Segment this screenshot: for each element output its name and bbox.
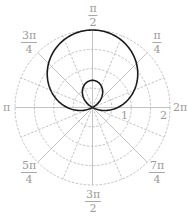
label-5pi-over-4: 5π4 — [21, 160, 37, 185]
radial-label-1: 1 — [121, 110, 128, 121]
label-pi: π — [3, 102, 10, 113]
label-7pi-over-4: 7π4 — [149, 160, 165, 185]
label-2pi: 2π — [173, 102, 187, 113]
label-pi-over-4: π4 — [152, 30, 161, 55]
major-spoke — [38, 108, 93, 163]
minor-spoke — [63, 108, 93, 180]
minor-spoke — [63, 36, 93, 108]
radial-label-2: 2 — [160, 110, 167, 121]
label-3pi-over-4: 3π4 — [21, 30, 37, 55]
major-spoke — [93, 108, 148, 163]
label-pi-over-2: π2 — [88, 3, 97, 28]
minor-spoke — [93, 108, 165, 138]
label-3pi-over-2: 3π2 — [85, 189, 101, 214]
